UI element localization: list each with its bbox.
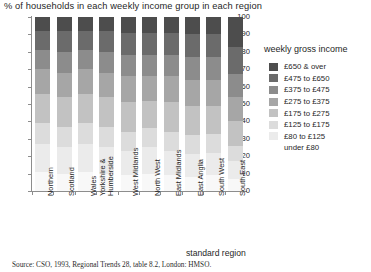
legend-item[interactable]: £175 to £275	[269, 107, 370, 119]
bar-segment	[99, 97, 114, 127]
bar-segment	[121, 33, 136, 56]
legend-item[interactable]: £650 & over	[269, 61, 370, 73]
legend: weekly gross income £650 & over£475 to £…	[258, 44, 370, 154]
bar-segment	[35, 69, 50, 93]
legend-item[interactable]: £475 to £650	[269, 73, 370, 85]
legend-swatch	[269, 98, 278, 106]
bar-segment	[121, 76, 136, 102]
bar-scotland[interactable]	[57, 17, 72, 191]
legend-label: £375 to £475	[284, 85, 330, 94]
x-axis-label: South West	[218, 158, 226, 196]
x-axis-label: Northern	[47, 167, 55, 196]
legend-label: £175 to £275	[284, 109, 330, 118]
bar-segment	[142, 101, 157, 129]
legend-title: weekly gross income	[264, 44, 370, 54]
legend-item[interactable]: £80 to £125	[269, 131, 370, 143]
bar-segment	[99, 31, 114, 52]
legend-label: under £80	[284, 143, 319, 152]
legend-label: £275 to £375	[284, 97, 330, 106]
bar-segment	[78, 17, 93, 31]
chart-page: % of households in each weekly income gr…	[0, 0, 371, 272]
bar-segment	[185, 34, 200, 57]
bar-segment	[57, 127, 72, 148]
bar-segment	[228, 121, 243, 145]
bar-segment	[35, 94, 50, 124]
legend-swatch	[269, 144, 278, 152]
x-axis-label: Yorkshire &Humberside	[99, 156, 116, 196]
legend-item[interactable]: under £80	[269, 142, 370, 154]
x-axis-label: Wales	[90, 176, 98, 196]
bar-segment	[164, 132, 179, 151]
bar-segment	[206, 57, 221, 80]
bar-segment	[57, 17, 72, 31]
bar-segment	[57, 52, 72, 73]
bar-segment	[78, 123, 93, 144]
bar-segment	[228, 47, 243, 75]
legend-label: £475 to £650	[284, 74, 330, 83]
bar-segment	[142, 33, 157, 56]
bar-segment	[185, 135, 200, 154]
bar-segment	[121, 102, 136, 132]
bar-segment	[185, 17, 200, 34]
legend-label: £80 to £125	[284, 132, 325, 141]
legend-swatch	[269, 121, 278, 129]
bar-segment	[228, 17, 243, 47]
bar-segment	[78, 50, 93, 69]
bar-segment	[185, 106, 200, 136]
bar-segment	[35, 50, 50, 69]
legend-items: £650 & over£475 to £650£375 to £475£275 …	[258, 61, 370, 154]
bar-northern[interactable]	[35, 17, 50, 191]
legend-label: £125 to £175	[284, 120, 330, 129]
bar-segment	[78, 94, 93, 124]
plot-area: 1009080706050403020100 NorthernScotlandW…	[0, 0, 250, 200]
bar-segment	[78, 31, 93, 50]
x-axis-label: Scotland	[68, 167, 76, 196]
legend-label: £650 & over	[284, 62, 326, 71]
bar-segment	[164, 17, 179, 33]
bar-segment	[35, 31, 50, 50]
bar-segment	[228, 97, 243, 121]
bar-segment	[35, 17, 50, 31]
x-axis-label: West Midlands	[132, 148, 140, 196]
bar-wales[interactable]	[78, 17, 93, 191]
bar-segment	[185, 80, 200, 106]
bar-segment	[57, 97, 72, 127]
x-axis-label: East Midlands	[175, 150, 183, 196]
bar-segment	[78, 144, 93, 172]
bar-segment	[164, 55, 179, 76]
bar-segment	[78, 69, 93, 93]
bar-segment	[164, 102, 179, 132]
bar-segment	[99, 127, 114, 148]
bar-segment	[206, 106, 221, 134]
bar-segment	[206, 17, 221, 34]
bar-segment	[57, 31, 72, 52]
legend-item[interactable]: £125 to £175	[269, 119, 370, 131]
legend-item[interactable]: £275 to £375	[269, 96, 370, 108]
legend-swatch	[269, 74, 278, 82]
x-axis-label: North West	[154, 159, 162, 196]
bar-segment	[228, 74, 243, 97]
bar-segment	[57, 73, 72, 97]
x-tick-mark	[118, 191, 119, 195]
legend-swatch	[269, 132, 278, 140]
x-axis-label: South East	[239, 160, 247, 196]
legend-swatch	[269, 86, 278, 94]
bar-segment	[164, 76, 179, 102]
source-note: Source: CSO, 1993, Regional Trends 28, t…	[12, 260, 211, 269]
bar-segment	[99, 17, 114, 31]
bar-segment	[142, 128, 157, 147]
bar-segment	[142, 55, 157, 76]
bar-segment	[142, 76, 157, 100]
legend-swatch	[269, 63, 278, 71]
bar-segment	[121, 17, 136, 33]
bar-segment	[206, 34, 221, 57]
bar-segment	[142, 17, 157, 33]
legend-swatch	[269, 109, 278, 117]
x-axis-label: East Anglia	[197, 159, 205, 196]
bar-segment	[185, 57, 200, 80]
bar-segment	[99, 73, 114, 97]
legend-item[interactable]: £375 to £475	[269, 84, 370, 96]
bar-segment	[35, 123, 50, 144]
bar-segment	[206, 80, 221, 106]
bar-segment	[121, 55, 136, 76]
